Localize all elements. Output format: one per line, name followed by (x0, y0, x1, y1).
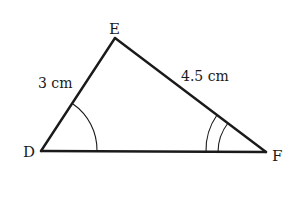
triangle-diagram: E D F 3 cm 4.5 cm (0, 0, 288, 214)
side-label-de: 3 cm (38, 75, 72, 91)
side-ef (115, 38, 266, 152)
side-de (41, 38, 115, 151)
angle-arc-d (73, 104, 97, 151)
angle-arc-f-outer (206, 115, 217, 152)
angle-arc-f-inner (218, 123, 228, 152)
vertex-label-f: F (272, 147, 282, 165)
vertex-label-e: E (109, 20, 120, 38)
side-label-ef: 4.5 cm (181, 68, 229, 84)
vertex-label-d: D (23, 143, 35, 161)
side-df (41, 151, 266, 152)
